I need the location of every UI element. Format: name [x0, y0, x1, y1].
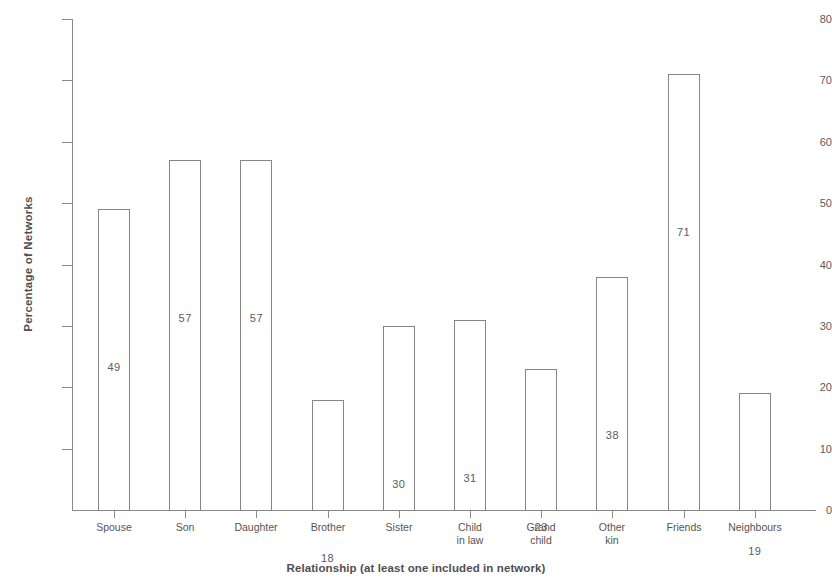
- x-axis-tick: [541, 511, 542, 518]
- y-axis-tick: [62, 449, 73, 450]
- bar-chart: Percentage of Networks 01020304050607080…: [0, 0, 832, 585]
- y-axis-tick-label: 30: [798, 320, 832, 332]
- y-axis-tick: [62, 80, 73, 81]
- bar-value-label: 57: [250, 312, 263, 324]
- bar: [312, 400, 344, 511]
- bar-value-label: 38: [606, 429, 619, 441]
- x-axis-tick: [684, 511, 685, 518]
- x-axis-title: Relationship (at least one included in n…: [0, 562, 832, 574]
- bar: [240, 160, 272, 511]
- bar: [668, 74, 700, 511]
- bar: [596, 277, 628, 511]
- x-axis-tick: [328, 511, 329, 518]
- y-axis-tick-label: 40: [798, 259, 832, 271]
- bar-value-label: 71: [677, 226, 690, 238]
- y-axis-tick: [62, 326, 73, 327]
- y-axis-tick-label: 0: [798, 504, 832, 516]
- x-axis-tick: [399, 511, 400, 518]
- bar-value-label: 19: [748, 545, 761, 557]
- x-axis-tick: [470, 511, 471, 518]
- bar-value-label: 31: [463, 472, 476, 484]
- y-axis-tick-label: 50: [798, 197, 832, 209]
- y-axis-tick: [62, 19, 73, 20]
- y-axis-tick-label: 60: [798, 136, 832, 148]
- y-axis-tick-label: 10: [798, 443, 832, 455]
- y-axis-tick: [62, 203, 73, 204]
- x-axis-tick: [185, 511, 186, 518]
- y-axis-tick: [62, 387, 73, 388]
- x-axis-tick: [256, 511, 257, 518]
- x-axis-tick: [114, 511, 115, 518]
- x-axis-tick: [755, 511, 756, 518]
- y-axis-tick: [62, 142, 73, 143]
- bar-value-label: 49: [107, 361, 120, 373]
- bar: [525, 369, 557, 511]
- y-axis-tick-label: 20: [798, 381, 832, 393]
- x-axis-tick: [612, 511, 613, 518]
- y-axis-tick-label: 80: [798, 13, 832, 25]
- bar-value-label: 30: [392, 478, 405, 490]
- bar: [169, 160, 201, 511]
- bar-value-label: 57: [179, 312, 192, 324]
- y-axis-title: Percentage of Networks: [22, 144, 34, 384]
- y-axis-tick-label: 70: [798, 74, 832, 86]
- x-axis-category-label: Neighbours: [700, 521, 810, 534]
- y-axis-tick: [62, 265, 73, 266]
- bar: [739, 393, 771, 511]
